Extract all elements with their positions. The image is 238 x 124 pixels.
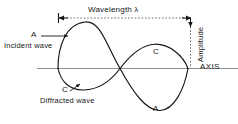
diffracted-wave-label: Diffracted wave (40, 96, 95, 105)
right-trough-marker-label: A (153, 104, 159, 113)
wavelength-label: Wavelength λ (88, 5, 139, 14)
wave-diagram: Wavelength λ A Incident wave C Diffracte… (0, 0, 238, 124)
incident-wave-label: Incident wave (4, 41, 52, 50)
incident-crest-marker-label: A (31, 30, 37, 39)
diffracted-wave-curve (58, 44, 188, 90)
axis-label: AXIS (200, 62, 220, 71)
amplitude-label: Amplitude (196, 27, 205, 62)
diffracted-trough-marker-label: C (62, 85, 68, 94)
right-crest-marker-label: C (153, 47, 159, 56)
